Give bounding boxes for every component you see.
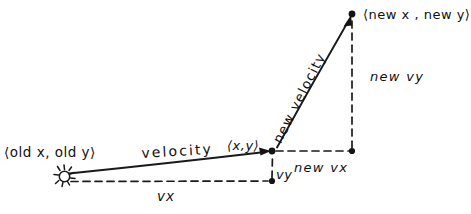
old-position-spark-icon [54, 165, 75, 187]
new-position-node [349, 11, 356, 18]
vx-baseline-guide [71, 181, 268, 182]
new-position-label: ⟨new x , new y⟩ [363, 8, 470, 21]
midpoint-label: ⟨x,y⟩ [227, 139, 259, 152]
diagram-canvas [0, 0, 471, 214]
vy-foot-node [269, 178, 275, 184]
new-vx-end-node [349, 148, 355, 154]
vx-label: vx [157, 190, 175, 204]
vy-riser-guide [272, 155, 273, 178]
new-vy-label: new vy [370, 70, 424, 83]
midpoint-node [269, 148, 276, 155]
velocity-label: velocity [141, 142, 213, 160]
velocity-diagram: ⟨old x, old y⟩ ⟨new x , new y⟩ ⟨x,y⟩ vel… [0, 0, 471, 214]
new-vx-label: new vx [294, 161, 348, 174]
vy-label: vy [276, 168, 292, 181]
old-position-label: ⟨old x, old y⟩ [4, 146, 96, 160]
